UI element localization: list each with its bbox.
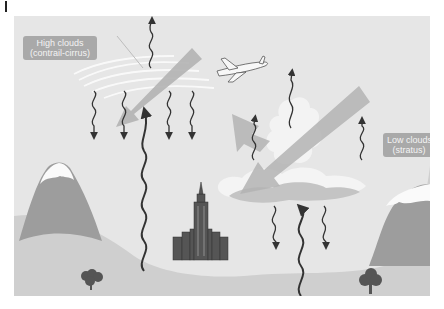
low-clouds-label-line2: (stratus) bbox=[387, 145, 430, 155]
low-clouds-label: Low clouds (stratus) bbox=[383, 133, 430, 157]
diagram-frame: High clouds (contrail-cirrus) Low clouds… bbox=[14, 16, 430, 296]
high-clouds-label-line2: (contrail-cirrus) bbox=[27, 48, 93, 58]
aircraft-icon bbox=[217, 56, 268, 82]
high-clouds-label-line1: High clouds bbox=[27, 38, 93, 48]
low-clouds-label-line1: Low clouds bbox=[387, 135, 430, 145]
solar-shortwave-arrow-high bbox=[116, 48, 202, 127]
page-corner-marker bbox=[5, 1, 7, 12]
city-skyline bbox=[173, 182, 228, 260]
left-mountain bbox=[19, 162, 102, 241]
right-mountain bbox=[369, 184, 430, 266]
stratus-cloud bbox=[218, 167, 366, 202]
high-clouds-label: High clouds (contrail-cirrus) bbox=[23, 36, 97, 60]
